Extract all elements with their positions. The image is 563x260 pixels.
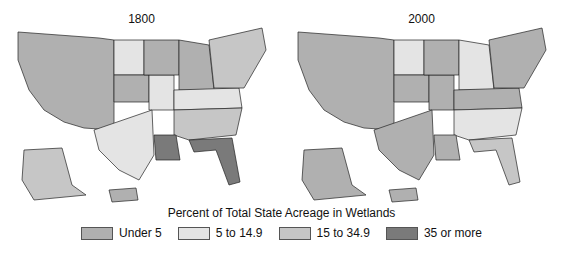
us-map-2000	[284, 10, 559, 215]
region-midwest	[144, 40, 179, 75]
region-louisiana	[434, 135, 460, 160]
region-southeast	[174, 108, 242, 140]
legend-item-35-or-more: 35 or more	[386, 226, 482, 240]
region-kansas	[114, 75, 149, 102]
region-florida	[189, 138, 240, 185]
region-northeast	[489, 28, 546, 88]
legend-label-5-to-14-9: 5 to 14.9	[216, 226, 263, 240]
legend-items: Under 5 5 to 14.9 15 to 34.9 35 or more	[0, 226, 563, 240]
region-west	[298, 32, 394, 130]
region-hawaii	[389, 188, 418, 202]
region-midwest	[424, 40, 459, 75]
legend-label-15-to-34-9: 15 to 34.9	[317, 226, 370, 240]
region-plains-north	[394, 40, 424, 75]
region-louisiana	[154, 135, 180, 160]
region-appalachia	[454, 88, 522, 110]
region-great-lakes	[179, 40, 214, 90]
legend: Percent of Total State Acreage in Wetlan…	[0, 206, 563, 240]
region-alaska	[22, 148, 86, 200]
legend-label-35-or-more: 35 or more	[424, 226, 482, 240]
region-northeast	[209, 28, 266, 88]
region-appalachia	[174, 88, 242, 110]
region-great-lakes	[459, 40, 494, 90]
region-southeast	[454, 108, 522, 140]
legend-item-under-5: Under 5	[81, 226, 162, 240]
legend-swatch-under-5	[81, 227, 113, 240]
us-map-1800	[4, 10, 279, 215]
map-2000: 2000	[284, 10, 559, 215]
region-hawaii	[109, 188, 138, 202]
legend-item-5-to-14-9: 5 to 14.9	[178, 226, 263, 240]
legend-swatch-35-or-more	[386, 227, 418, 240]
region-plains-south	[429, 75, 454, 110]
region-florida	[469, 138, 520, 185]
legend-label-under-5: Under 5	[119, 226, 162, 240]
region-plains-south	[149, 75, 174, 110]
region-plains-north	[114, 40, 144, 75]
region-alaska	[302, 148, 366, 200]
map-1800: 1800	[4, 10, 279, 215]
legend-item-15-to-34-9: 15 to 34.9	[279, 226, 370, 240]
region-west	[18, 32, 114, 130]
legend-swatch-5-to-14-9	[178, 227, 210, 240]
legend-swatch-15-to-34-9	[279, 227, 311, 240]
legend-title: Percent of Total State Acreage in Wetlan…	[0, 206, 563, 220]
region-kansas	[394, 75, 429, 102]
